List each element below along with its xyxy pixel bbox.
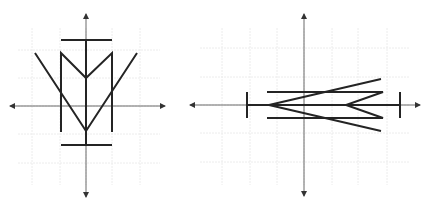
diagram-canvas [0,0,427,206]
figure-left [10,14,165,197]
grid-lines [200,28,410,185]
figure-right [190,14,420,196]
diagram-stage [0,0,427,206]
